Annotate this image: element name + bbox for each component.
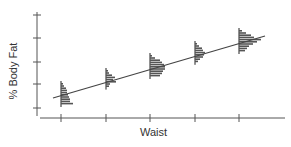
histogram-bar xyxy=(61,96,69,98)
histogram-bar xyxy=(239,30,242,32)
histogram-bar xyxy=(195,43,197,45)
conditional-histograms xyxy=(61,28,261,107)
histogram-bar xyxy=(195,47,202,49)
histogram-bar xyxy=(195,50,203,52)
regression-line xyxy=(53,36,265,98)
histogram-bar xyxy=(106,77,115,79)
histogram-bar xyxy=(150,64,164,66)
histogram-bar xyxy=(106,72,109,74)
histogram-bar xyxy=(239,45,249,47)
histogram-bar xyxy=(61,103,73,105)
histogram-bar xyxy=(195,52,205,54)
histogram-bar xyxy=(195,58,200,60)
histogram-bar xyxy=(61,98,70,100)
histogram-bar xyxy=(61,87,66,89)
histogram-bar xyxy=(61,101,70,103)
histogram-bar xyxy=(239,48,247,50)
histogram-bar xyxy=(106,70,108,72)
histogram-bar xyxy=(61,90,67,92)
histogram-bar xyxy=(61,83,63,85)
histogram-bar xyxy=(239,37,254,39)
histogram-bar xyxy=(106,85,109,87)
histogram-bar xyxy=(150,70,163,72)
x-axis-label: Waist xyxy=(140,126,167,138)
histogram-bar xyxy=(150,75,160,77)
histogram-bar xyxy=(239,32,246,34)
chart-canvas xyxy=(0,0,291,147)
y-axis-label: % Body Fat xyxy=(7,41,21,101)
histogram-bar xyxy=(61,92,67,94)
histogram-bar xyxy=(61,85,64,87)
histogram-bar xyxy=(150,62,162,64)
histogram-bar xyxy=(106,74,112,76)
histogram-bar xyxy=(239,34,251,36)
histogram-bar xyxy=(195,61,198,63)
histogram-bar xyxy=(150,73,162,75)
histogram-bar xyxy=(150,55,152,57)
histogram-bar xyxy=(195,45,199,47)
histogram-bar xyxy=(239,50,245,52)
histogram-bar xyxy=(150,59,160,61)
histogram-bar xyxy=(150,57,155,59)
histogram-bar xyxy=(106,83,110,85)
